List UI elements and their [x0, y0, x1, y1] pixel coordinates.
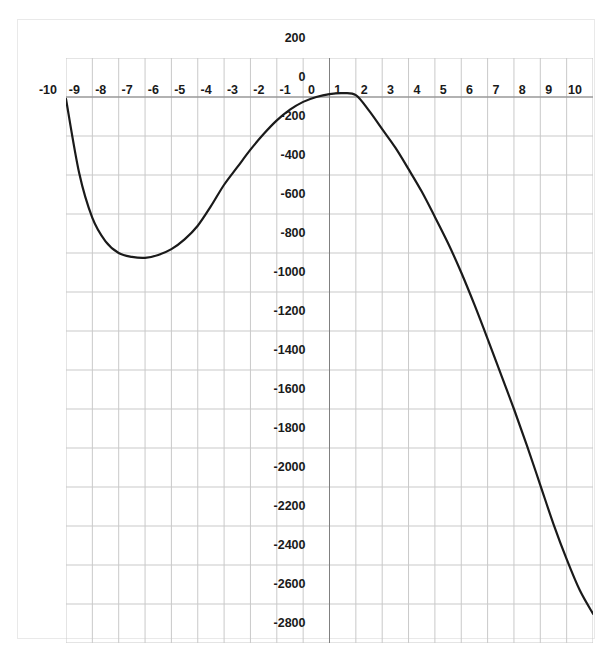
plot-area — [66, 58, 593, 643]
plot-svg — [66, 58, 593, 643]
chart-frame — [17, 19, 595, 639]
chart-screenshot: 2000-200-400-600-800-1000-1200-1400-1600… — [0, 0, 614, 654]
